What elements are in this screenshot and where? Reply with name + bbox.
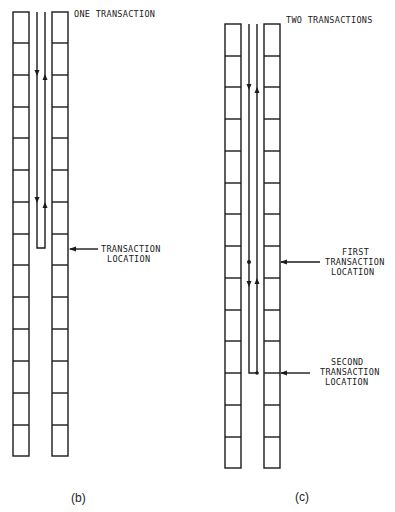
second-transaction-marker: [255, 371, 259, 375]
down-arrow-icon: [35, 70, 40, 76]
figure-b-right-column: [52, 12, 68, 456]
diagram-canvas: ONE TRANSACTION TRANSACTION LOCATION (b): [0, 0, 395, 512]
up-arrow-icon: [43, 202, 48, 208]
figure-c: TWO TRANSACTIONS FIRST TRANSACTION LOCAT…: [225, 15, 385, 504]
left-arrow-icon: [280, 371, 287, 376]
figure-c-left-column: [225, 24, 241, 468]
up-arrow-icon: [43, 74, 48, 80]
down-arrow-icon: [247, 281, 252, 287]
up-arrow-icon: [255, 87, 260, 93]
svg-text:TRANSACTION: TRANSACTION: [101, 244, 161, 254]
first-transaction-marker: [247, 260, 251, 264]
figure-c-right-column: [264, 24, 280, 468]
figure-b: ONE TRANSACTION TRANSACTION LOCATION (b): [13, 9, 161, 505]
svg-text:FIRST: FIRST: [342, 247, 369, 257]
svg-text:TRANSACTION: TRANSACTION: [320, 367, 380, 377]
figure-c-transaction-path: [247, 24, 260, 375]
figure-c-first-transaction-annotation: FIRST TRANSACTION LOCATION: [280, 247, 385, 277]
up-arrow-icon: [255, 278, 260, 284]
svg-text:LOCATION: LOCATION: [325, 377, 368, 387]
down-arrow-icon: [35, 197, 40, 203]
figure-c-second-transaction-annotation: SECOND TRANSACTION LOCATION: [280, 357, 380, 387]
figure-b-caption: (b): [71, 491, 86, 505]
figure-b-left-column: [13, 12, 29, 456]
svg-text:SECOND: SECOND: [331, 357, 364, 367]
svg-text:LOCATION: LOCATION: [331, 267, 374, 277]
left-arrow-icon: [280, 260, 287, 265]
figure-b-transaction-path: [35, 12, 48, 248]
left-arrow-icon: [69, 247, 76, 252]
svg-text:TRANSACTION: TRANSACTION: [325, 257, 385, 267]
svg-text:LOCATION: LOCATION: [107, 254, 150, 264]
figure-c-title: TWO TRANSACTIONS: [286, 15, 373, 25]
down-arrow-icon: [247, 84, 252, 90]
figure-c-caption: (c): [295, 490, 309, 504]
figure-b-transaction-location-annotation: TRANSACTION LOCATION: [69, 244, 161, 264]
figure-b-title: ONE TRANSACTION: [74, 9, 155, 19]
